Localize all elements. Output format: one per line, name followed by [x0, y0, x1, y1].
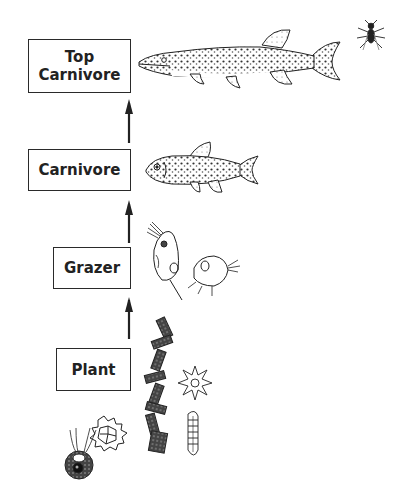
daphnia-illustration — [147, 222, 182, 300]
diatom-illustration — [188, 411, 198, 455]
illustrations — [0, 0, 406, 497]
arrow-grazer-to-carnivore — [125, 200, 133, 243]
minnow-fish-illustration — [146, 142, 258, 192]
pediastrum-algae-illustration — [90, 416, 127, 451]
filamentous-algae-illustration — [144, 317, 172, 453]
flagellate-algae-illustration — [65, 428, 96, 479]
fly-illustration — [357, 20, 385, 50]
arrow-plant-to-grazer — [125, 297, 133, 339]
star-algae-illustration — [178, 366, 212, 400]
arrow-carnivore-to-top-carnivore — [125, 99, 133, 143]
pike-fish-illustration — [139, 30, 340, 88]
copepod-illustration — [188, 256, 240, 296]
food-chain-diagram: Top Carnivore Carnivore Grazer Plant — [0, 0, 406, 497]
